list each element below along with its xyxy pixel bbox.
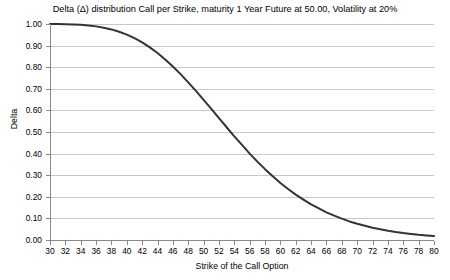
x-tick-mark — [296, 241, 297, 245]
x-tick-mark — [142, 241, 143, 245]
y-tick-mark — [46, 197, 50, 198]
x-tick-mark — [434, 241, 435, 245]
y-tick-mark — [46, 132, 50, 133]
x-tick-mark — [219, 241, 220, 245]
x-tick-mark — [342, 241, 343, 245]
y-tick-label: 0.50 — [2, 128, 42, 136]
x-tick-mark — [111, 241, 112, 245]
x-tick-mark — [50, 241, 51, 245]
x-tick-mark — [127, 241, 128, 245]
x-tick-mark — [373, 241, 374, 245]
chart-title: Delta (Δ) distribution Call per Strike, … — [0, 3, 450, 15]
y-tick-mark — [46, 46, 50, 47]
x-tick-mark — [311, 241, 312, 245]
x-tick-mark — [81, 241, 82, 245]
y-tick-mark — [46, 154, 50, 155]
x-tick-mark — [250, 241, 251, 245]
x-tick-mark — [173, 241, 174, 245]
x-axis-label: Strike of the Call Option — [50, 261, 434, 271]
x-tick-mark — [265, 241, 266, 245]
x-axis-line — [50, 240, 434, 241]
y-tick-label: 0.10 — [2, 214, 42, 222]
x-tick-mark — [388, 241, 389, 245]
x-tick-mark — [280, 241, 281, 245]
y-tick-label: 0.30 — [2, 171, 42, 179]
y-tick-label: 0.20 — [2, 193, 42, 201]
x-tick-mark — [326, 241, 327, 245]
x-tick-mark — [403, 241, 404, 245]
chart-container: Delta (Δ) distribution Call per Strike, … — [0, 0, 450, 280]
y-tick-mark — [46, 67, 50, 68]
x-tick-mark — [158, 241, 159, 245]
series-line-delta — [50, 24, 434, 240]
y-tick-label: 0.90 — [2, 42, 42, 50]
x-tick-label: 80 — [422, 247, 446, 256]
x-tick-mark — [96, 241, 97, 245]
x-tick-mark — [188, 241, 189, 245]
x-tick-mark — [65, 241, 66, 245]
y-tick-label: 0.70 — [2, 85, 42, 93]
y-tick-mark — [46, 175, 50, 176]
y-tick-label: 0.00 — [2, 236, 42, 244]
y-tick-mark — [46, 218, 50, 219]
y-tick-label: 1.00 — [2, 20, 42, 28]
y-tick-mark — [46, 24, 50, 25]
plot-area — [50, 24, 434, 240]
x-tick-mark — [234, 241, 235, 245]
y-axis-label: Delta — [9, 89, 19, 149]
x-tick-mark — [419, 241, 420, 245]
x-tick-mark — [204, 241, 205, 245]
y-tick-label: 0.40 — [2, 150, 42, 158]
y-tick-label: 0.80 — [2, 63, 42, 71]
y-tick-mark — [46, 89, 50, 90]
y-tick-mark — [46, 110, 50, 111]
y-tick-label: 0.60 — [2, 106, 42, 114]
x-tick-mark — [357, 241, 358, 245]
y-axis-line — [50, 24, 51, 241]
